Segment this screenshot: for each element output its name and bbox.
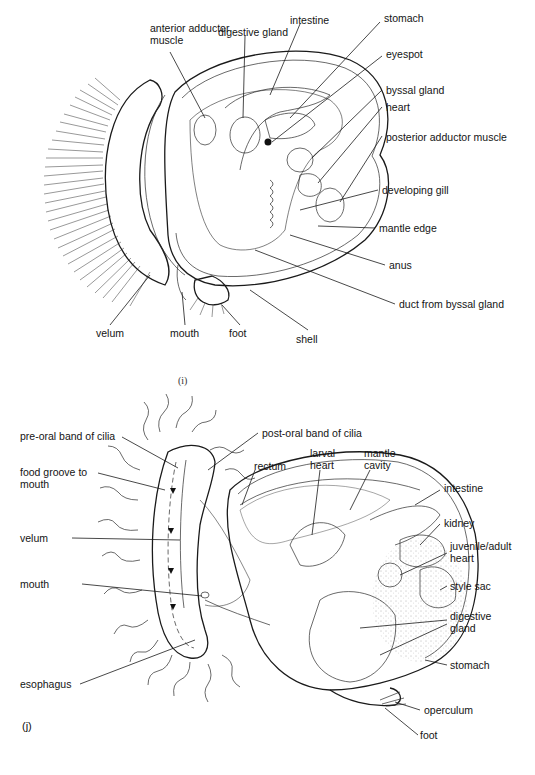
intestine-j [370, 506, 440, 545]
label-posterior-adductor-muscle-i: posterior adductor muscle [386, 131, 507, 143]
label-velum-j: velum [20, 532, 48, 544]
label-mouth-i: mouth [170, 327, 199, 339]
label-foot-i: foot [229, 327, 247, 339]
label-developing-gill-i: developing gill [382, 184, 449, 196]
label-intestine-i: intestine [290, 14, 329, 26]
mantle-cavity-j [240, 485, 390, 543]
mouth-j [201, 592, 209, 598]
label-juvenile-adult-heart-j: juvenile/adult heart [450, 540, 520, 564]
label-eyespot-i: eyespot [386, 48, 423, 60]
label-esophagus-j: esophagus [20, 678, 71, 690]
label-mantle-cavity-j: mantle cavity [364, 447, 408, 471]
label-stomach-j: stomach [450, 659, 490, 671]
label-byssal-gland-i: byssal gland [386, 84, 444, 96]
food-groove-arrows-j [168, 488, 176, 610]
rectum-j [240, 479, 420, 505]
label-shell-i: shell [296, 333, 318, 345]
label-intestine-j: intestine [444, 482, 483, 494]
label-anus-i: anus [389, 259, 412, 271]
panel-caption-i: (i) [178, 375, 187, 386]
panel-caption-j: (j) [22, 720, 32, 732]
esophagus-j [205, 600, 270, 625]
label-digestive-gland-j: digestive gland [450, 610, 500, 634]
larval-heart-j [290, 523, 345, 567]
label-food-groove-to-mouth-j: food groove to mouth [20, 466, 100, 490]
label-mouth-j: mouth [20, 578, 49, 590]
label-operculum-j: operculum [424, 704, 473, 716]
label-pre-oral-band-of-cilia-j: pre-oral band of cilia [20, 430, 115, 442]
label-style-sac-j: style sac [450, 580, 491, 592]
label-digestive-gland-i: digestive gland [218, 26, 288, 38]
label-velum-i: velum [96, 327, 124, 339]
foot-j [330, 688, 400, 706]
label-rectum-j: rectum [254, 460, 286, 472]
label-mantle-edge-i: mantle edge [379, 222, 437, 234]
label-heart-i: heart [386, 101, 410, 113]
label-kidney-j: kidney [444, 517, 474, 529]
figure: anterior adductor muscle digestive gland… [0, 0, 535, 775]
label-larval-heart-j: larval heart [310, 447, 350, 471]
label-duct-from-byssal-gland-i: duct from byssal gland [399, 298, 504, 310]
label-stomach-i: stomach [384, 12, 424, 24]
label-post-oral-band-of-cilia-j: post-oral band of cilia [262, 427, 362, 439]
label-foot-j: foot [420, 729, 438, 741]
